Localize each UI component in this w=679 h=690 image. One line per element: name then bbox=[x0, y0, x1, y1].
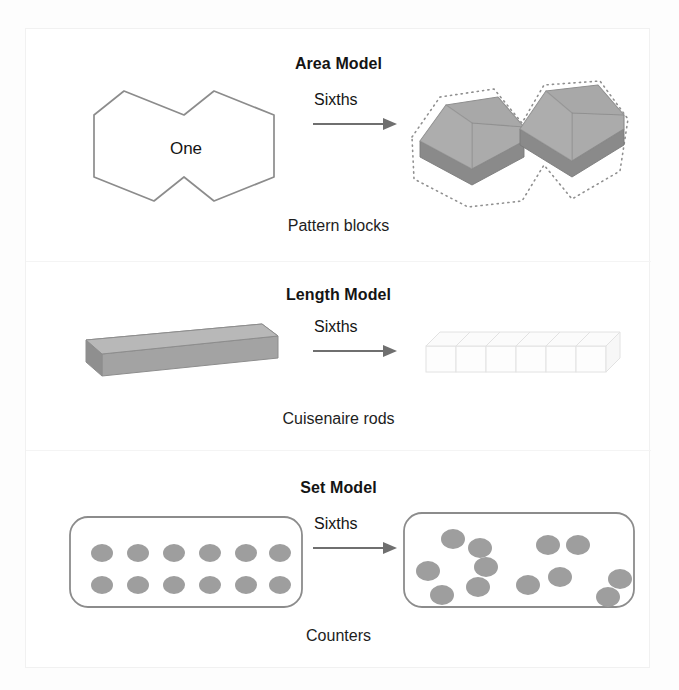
counter-grid-5 bbox=[235, 544, 257, 562]
figure-frame: Area Model One Sixths bbox=[25, 28, 650, 668]
area-whole-label: One bbox=[170, 139, 202, 159]
area-arrow-label: Sixths bbox=[314, 91, 358, 109]
counter-grid-7 bbox=[91, 576, 113, 594]
model-row-set: Set Model Sixths bbox=[26, 451, 651, 667]
counter-scatter-4 bbox=[566, 535, 590, 555]
counter-scatter-7 bbox=[474, 557, 498, 577]
length-model-title: Length Model bbox=[26, 286, 651, 304]
counter-grid-8 bbox=[127, 576, 149, 594]
counter-grid-1 bbox=[91, 544, 113, 562]
counter-scatter-5 bbox=[416, 561, 440, 581]
counter-grid-3 bbox=[163, 544, 185, 562]
length-arrow-label: Sixths bbox=[314, 318, 358, 336]
counter-grid-6 bbox=[269, 544, 291, 562]
counter-grid-2 bbox=[127, 544, 149, 562]
counter-grid-12 bbox=[269, 576, 291, 594]
counter-scatter-8 bbox=[466, 577, 490, 597]
model-row-length: Length Model S bbox=[26, 261, 651, 451]
figure-canvas: Area Model One Sixths bbox=[0, 0, 679, 690]
counter-grid-9 bbox=[163, 576, 185, 594]
counter-scatter-9 bbox=[516, 575, 540, 595]
counter-grid-10 bbox=[199, 576, 221, 594]
counter-scatter-10 bbox=[548, 567, 572, 587]
counter-scatter-11 bbox=[608, 569, 632, 589]
area-model-caption: Pattern blocks bbox=[26, 217, 651, 235]
counter-grid-11 bbox=[235, 576, 257, 594]
counter-scatter-12 bbox=[596, 587, 620, 607]
set-model-caption: Counters bbox=[26, 627, 651, 645]
counter-scatter-1 bbox=[441, 529, 465, 549]
counter-scatter-6 bbox=[430, 585, 454, 605]
counter-scatter-2 bbox=[468, 538, 492, 558]
counter-scatter-3 bbox=[536, 535, 560, 555]
counter-grid-4 bbox=[199, 544, 221, 562]
model-row-area: Area Model One Sixths bbox=[26, 29, 651, 261]
length-model-caption: Cuisenaire rods bbox=[26, 410, 651, 428]
set-model-title: Set Model bbox=[26, 479, 651, 497]
set-arrow-label: Sixths bbox=[314, 515, 358, 533]
